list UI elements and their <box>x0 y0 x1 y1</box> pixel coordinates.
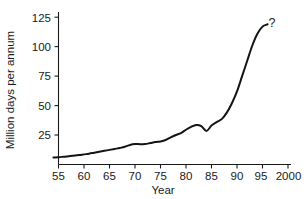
chart-figure: 125 100 75 50 25 55 60 65 70 75 80 <box>0 0 308 199</box>
x-tick-label-60: 60 <box>78 170 91 182</box>
y-tick-label-100: 100 <box>32 41 51 53</box>
y-axis-title: Million days per annum <box>4 31 16 149</box>
x-tick-label-70: 70 <box>129 170 142 182</box>
x-tick-label-90: 90 <box>231 170 244 182</box>
y-tick-label-25: 25 <box>38 129 51 141</box>
x-tick-label-2000: 2000 <box>276 170 302 182</box>
y-axis-ticks <box>55 17 59 135</box>
y-axis-tick-labels: 125 100 75 50 25 <box>32 12 51 142</box>
x-tick-label-85: 85 <box>205 170 218 182</box>
x-tick-label-95: 95 <box>255 170 268 182</box>
data-line-series <box>53 24 267 157</box>
x-axis-title: Year <box>151 184 174 196</box>
x-axis-tick-labels: 55 60 65 70 75 80 85 90 95 2000 <box>52 170 301 182</box>
x-tick-label-65: 65 <box>103 170 116 182</box>
y-tick-label-50: 50 <box>38 100 51 112</box>
x-tick-label-80: 80 <box>180 170 193 182</box>
y-tick-label-125: 125 <box>32 12 51 24</box>
x-tick-label-75: 75 <box>154 170 167 182</box>
y-tick-label-75: 75 <box>38 70 51 82</box>
x-tick-label-55: 55 <box>52 170 65 182</box>
question-mark-annotation: ? <box>269 16 276 30</box>
x-axis-ticks <box>59 165 289 169</box>
line-chart: 125 100 75 50 25 55 60 65 70 75 80 <box>0 0 308 199</box>
